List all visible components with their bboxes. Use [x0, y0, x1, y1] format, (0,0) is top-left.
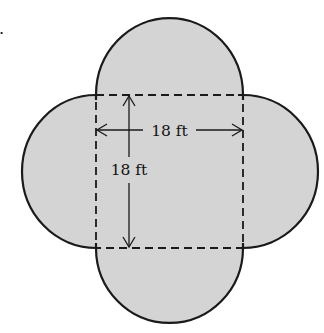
shape-fill — [22, 18, 318, 323]
part-marker: . — [0, 19, 4, 38]
vertical-dimension-label: 18 ft — [111, 161, 148, 179]
horizontal-dimension-label: 18 ft — [151, 122, 188, 140]
composite-figure: 18 ft 18 ft . — [0, 0, 324, 333]
